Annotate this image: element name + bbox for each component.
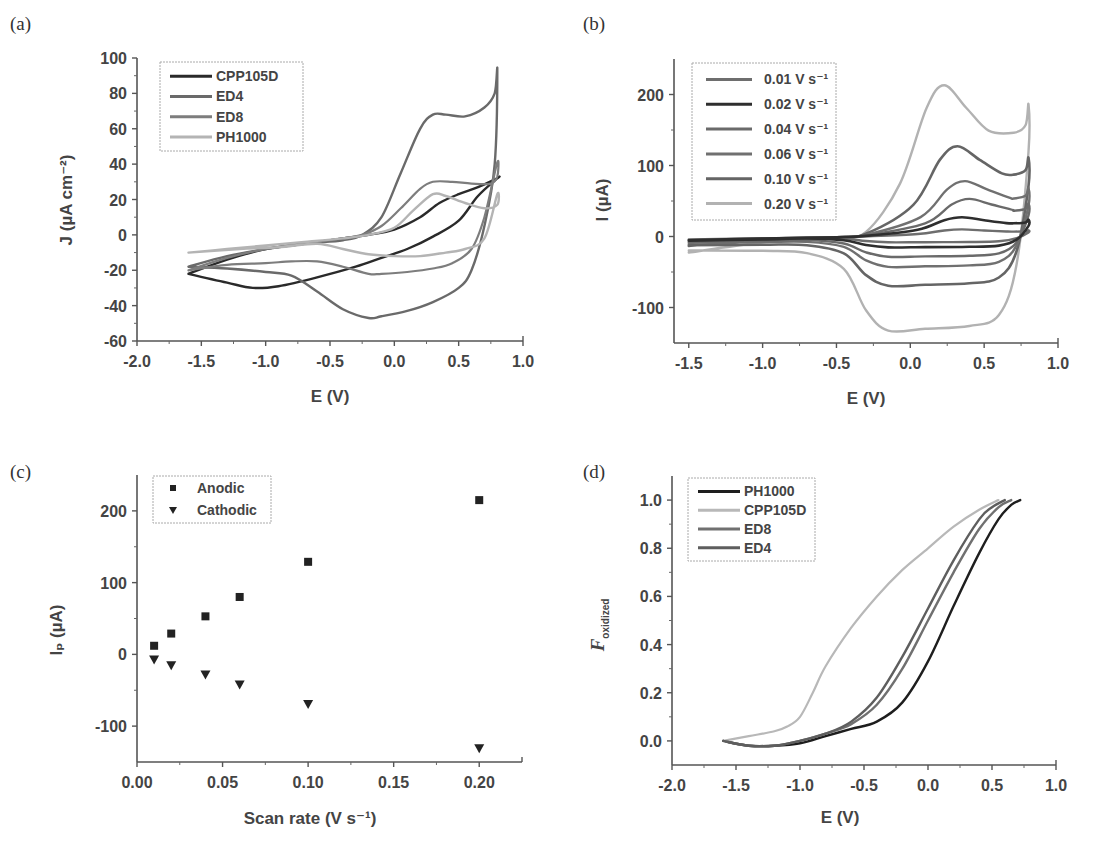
x-tick-label: 0.00 <box>121 774 152 791</box>
x-tick-label: -1.0 <box>252 353 280 370</box>
legend: PH1000CPP105DED8ED4 <box>688 478 815 561</box>
x-tick-label: -0.5 <box>823 355 851 372</box>
x-tick-label: 0.0 <box>383 353 405 370</box>
y-tick-label: -100 <box>632 300 664 317</box>
y-axis-title-sub: oxidized <box>600 599 611 639</box>
y-tick-label: 0 <box>118 646 127 663</box>
panel-b-scan-rate-cv: (b) -1.5-1.0-0.50.00.51.0-1000100200 0.0… <box>583 13 1069 408</box>
legend-marker-square <box>170 485 176 491</box>
y-axis-title-main: F <box>587 638 608 652</box>
y-axis-title: J (µA cm⁻²) <box>57 155 76 246</box>
legend: 0.01 V s⁻¹0.02 V s⁻¹0.04 V s⁻¹0.06 V s⁻¹… <box>692 63 836 220</box>
y-tick-label: 0.2 <box>640 685 662 702</box>
x-tick-label: -2.0 <box>658 777 686 794</box>
legend-entry-label: 0.02 V s⁻¹ <box>764 96 829 112</box>
legend-entry-label: PH1000 <box>744 483 795 499</box>
y-tick-label: 60 <box>109 121 127 138</box>
y-tick-label: 0 <box>655 229 664 246</box>
x-axis-title: E (V) <box>821 808 860 827</box>
figure: (a) -2.0-1.5-1.0-0.50.00.51.0-60-40-2002… <box>0 0 1106 868</box>
y-tick-label: 0.4 <box>640 637 662 654</box>
legend-entry-label: Cathodic <box>197 502 257 518</box>
legend: AnodicCathodic <box>153 476 271 523</box>
x-tick-label: 0.0 <box>899 355 921 372</box>
legend-entry-label: 0.20 V s⁻¹ <box>764 196 829 212</box>
y-tick-label: 1.0 <box>640 492 662 509</box>
y-tick-label: 80 <box>109 85 127 102</box>
y-tick-label: -20 <box>104 262 127 279</box>
x-tick-label: 0.10 <box>293 774 324 791</box>
panel-a-cyclic-voltammetry: (a) -2.0-1.5-1.0-0.50.00.51.0-60-40-2002… <box>10 13 534 406</box>
y-tick-label: -60 <box>104 333 127 350</box>
y-tick-label: 20 <box>109 192 127 209</box>
y-tick-label: 0 <box>118 227 127 244</box>
legend-entry-label: 0.01 V s⁻¹ <box>764 71 829 87</box>
y-tick-label: 0.8 <box>640 540 662 557</box>
x-axis-title: E (V) <box>847 389 886 408</box>
legend-entry-label: 0.10 V s⁻¹ <box>764 171 829 187</box>
y-axis-title: I (µA) <box>593 179 612 222</box>
legend-entry-label: Anodic <box>197 480 245 496</box>
x-tick-label: -0.5 <box>316 353 344 370</box>
x-tick-label: 0.20 <box>464 774 495 791</box>
y-tick-label: 100 <box>100 50 127 67</box>
anodic-marker <box>475 496 483 504</box>
legend: CPP105DED4ED8PH1000 <box>160 62 303 151</box>
x-tick-label: 1.0 <box>1047 355 1069 372</box>
x-tick-label: -1.0 <box>786 777 814 794</box>
legend-entry-label: ED8 <box>216 109 243 125</box>
x-axis-title: E (V) <box>311 387 350 406</box>
y-tick-label: 200 <box>637 87 664 104</box>
x-axis-title: Scan rate (V s⁻¹) <box>244 809 377 828</box>
legend-entry-label: ED4 <box>744 540 771 556</box>
x-tick-label: 1.0 <box>1045 777 1067 794</box>
y-tick-label: 0.0 <box>640 733 662 750</box>
anodic-marker <box>201 612 209 620</box>
x-tick-label: 1.0 <box>512 353 534 370</box>
x-tick-label: 0.15 <box>378 774 409 791</box>
y-axis-title: Foxidized <box>587 599 611 653</box>
anodic-marker <box>167 630 175 638</box>
y-tick-label: 200 <box>100 503 127 520</box>
anodic-marker <box>150 642 158 650</box>
anodic-marker <box>236 593 244 601</box>
cathodic-marker <box>149 655 159 664</box>
x-tick-label: 0.5 <box>981 777 1003 794</box>
panel-label: (c) <box>10 461 31 483</box>
legend-entry-label: ED4 <box>216 88 243 104</box>
x-tick-label: -1.0 <box>749 355 777 372</box>
anodic-marker <box>304 558 312 566</box>
legend-entry-label: ED8 <box>744 521 771 537</box>
x-tick-label: 0.5 <box>448 353 470 370</box>
y-tick-label: 100 <box>637 158 664 175</box>
x-tick-label: 0.05 <box>207 774 238 791</box>
y-tick-label: 100 <box>100 575 127 592</box>
cathodic-marker <box>166 661 176 670</box>
cathodic-marker <box>474 744 484 753</box>
legend-entry-label: CPP105D <box>744 502 806 518</box>
x-tick-label: -1.5 <box>188 353 216 370</box>
panel-c-peak-current-vs-scan-rate: (c) 0.000.050.100.150.20-1000100200 Anod… <box>10 461 522 828</box>
cathodic-marker <box>303 700 313 709</box>
legend-entry-label: CPP105D <box>216 68 278 84</box>
y-tick-label: 0.6 <box>640 588 662 605</box>
x-tick-label: 0.0 <box>917 777 939 794</box>
x-tick-label: -2.0 <box>123 353 151 370</box>
panel-label: (b) <box>583 13 605 35</box>
panel-label: (a) <box>10 13 31 35</box>
legend-entry-label: 0.06 V s⁻¹ <box>764 146 829 162</box>
cathodic-marker <box>200 670 210 679</box>
y-tick-label: 40 <box>109 156 127 173</box>
x-tick-label: 0.5 <box>973 355 995 372</box>
x-tick-label: -1.5 <box>675 355 703 372</box>
y-axis-title: Iₚ (µA) <box>47 605 66 656</box>
legend-entry-label: 0.04 V s⁻¹ <box>764 121 829 137</box>
curve-cpp105d <box>189 177 500 289</box>
legend-entry-label: PH1000 <box>216 129 267 145</box>
y-tick-label: -40 <box>104 298 127 315</box>
panel-d-fraction-oxidized: (d) -2.0-1.5-1.0-0.50.00.51.00.00.20.40.… <box>583 461 1067 827</box>
plot-markers <box>149 496 484 753</box>
y-tick-label: -100 <box>95 718 127 735</box>
x-tick-label: -1.5 <box>722 777 750 794</box>
panel-label: (d) <box>583 461 605 483</box>
